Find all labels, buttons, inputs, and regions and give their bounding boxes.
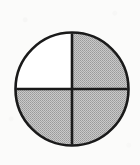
figure-container: Circle divided into four equal quadrants… bbox=[0, 0, 140, 165]
quartered-circle-diagram bbox=[0, 0, 140, 165]
